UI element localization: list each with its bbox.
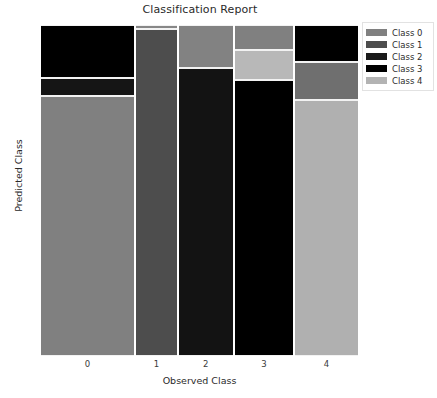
legend-swatch-icon bbox=[366, 41, 387, 48]
mosaic-tile-observed-4-class-3 bbox=[295, 25, 358, 62]
mosaic-tile-observed-0-class-3 bbox=[41, 25, 134, 78]
legend-swatch-icon bbox=[366, 77, 387, 84]
legend-swatch-icon bbox=[366, 29, 387, 36]
mosaic-column-2 bbox=[179, 25, 234, 356]
legend-swatch-icon bbox=[366, 65, 387, 72]
legend-item-class-3: Class 3 bbox=[366, 63, 430, 74]
legend-label: Class 3 bbox=[392, 64, 422, 74]
mosaic-tile-observed-4-class-4 bbox=[295, 100, 358, 356]
mosaic-tile-observed-0-class-0 bbox=[41, 96, 134, 356]
mosaic-tile-observed-2-class-2 bbox=[179, 68, 234, 356]
x-tick-label-4: 4 bbox=[324, 359, 329, 369]
mosaic-tile-observed-3-class-0 bbox=[235, 25, 294, 50]
legend-item-class-1: Class 1 bbox=[366, 39, 430, 50]
legend-label: Class 1 bbox=[392, 40, 422, 50]
mosaic-column-4 bbox=[295, 25, 358, 356]
mosaic-tile-observed-0-class-2 bbox=[41, 78, 134, 96]
mosaic-tile-observed-1-class-1 bbox=[136, 29, 177, 356]
mosaic-column-3 bbox=[235, 25, 294, 356]
chart-title: Classification Report bbox=[0, 3, 400, 16]
mosaic-tile-observed-2-class-0 bbox=[179, 25, 234, 68]
legend-swatch-icon bbox=[366, 53, 387, 60]
mosaic-plot-area bbox=[41, 25, 358, 356]
x-tick-label-3: 3 bbox=[261, 359, 266, 369]
x-tick-label-1: 1 bbox=[154, 359, 159, 369]
chart-legend: Class 0Class 1Class 2Class 3Class 4 bbox=[362, 22, 434, 91]
legend-item-class-2: Class 2 bbox=[366, 51, 430, 62]
figure-canvas: Classification Report 01234 Observed Cla… bbox=[0, 0, 437, 398]
mosaic-column-0 bbox=[41, 25, 134, 356]
legend-label: Class 0 bbox=[392, 28, 422, 38]
x-tick-label-0: 0 bbox=[85, 359, 90, 369]
legend-item-class-4: Class 4 bbox=[366, 75, 430, 86]
legend-item-class-0: Class 0 bbox=[366, 27, 430, 38]
legend-label: Class 2 bbox=[392, 52, 422, 62]
mosaic-tile-observed-4-class-1 bbox=[295, 62, 358, 100]
y-axis-label: Predicted Class bbox=[13, 106, 24, 246]
mosaic-tile-observed-3-class-3 bbox=[235, 80, 294, 356]
x-axis-label: Observed Class bbox=[41, 375, 358, 386]
x-tick-label-2: 2 bbox=[203, 359, 208, 369]
mosaic-tile-observed-3-class-4 bbox=[235, 50, 294, 80]
mosaic-column-1 bbox=[136, 25, 177, 356]
legend-label: Class 4 bbox=[392, 76, 422, 86]
